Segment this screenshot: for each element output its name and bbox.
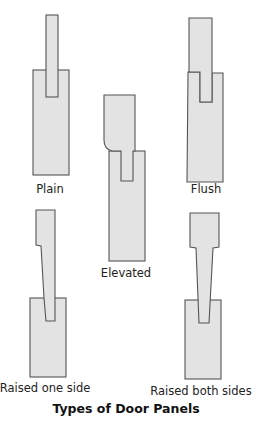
label-elevated: Elevated (101, 266, 151, 280)
plain-panel-drawing (33, 15, 69, 175)
raised-both-sides-drawing (185, 213, 221, 379)
door-panels-diagram (0, 0, 263, 435)
label-flush: Flush (191, 182, 221, 196)
plain-panel (46, 15, 58, 97)
elevated-panel-drawing (104, 95, 145, 261)
flush-panel-drawing (187, 18, 223, 182)
figure-title: Types of Door Panels (52, 401, 199, 416)
raised-one-side-drawing (30, 210, 66, 377)
label-plain: Plain (36, 182, 64, 196)
label-raised-one-side: Raised one side (0, 381, 90, 395)
label-raised-both-sides: Raised both sides (150, 384, 251, 398)
